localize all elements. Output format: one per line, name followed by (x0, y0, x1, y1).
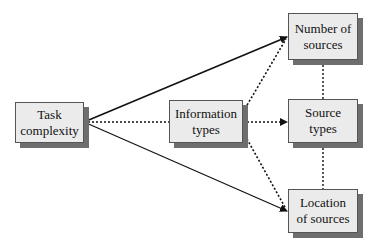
node-source-types-line2: types (305, 121, 341, 137)
node-task-complexity-line2: complexity (20, 123, 79, 139)
node-number-of-sources-line2: sources (295, 37, 352, 53)
edge-info-to-location (243, 132, 286, 209)
node-task-complexity: Task complexity (15, 102, 84, 143)
diagram-canvas: Task complexity Information types Number… (0, 0, 375, 248)
node-source-types: Source types (288, 99, 358, 143)
node-location-of-sources-line1: Location (296, 195, 349, 211)
node-number-of-sources: Number of sources (288, 13, 358, 60)
node-source-types-line1: Source (305, 105, 341, 121)
node-number-of-sources-line1: Number of (295, 21, 352, 37)
node-information-types-line1: Information (175, 106, 237, 122)
node-task-complexity-line1: Task (20, 107, 79, 123)
node-location-of-sources: Location of sources (288, 189, 358, 233)
node-information-types-line2: types (175, 122, 237, 138)
node-information-types: Information types (169, 100, 243, 143)
edge-info-to-number (243, 39, 286, 112)
node-location-of-sources-line2: of sources (296, 211, 349, 227)
